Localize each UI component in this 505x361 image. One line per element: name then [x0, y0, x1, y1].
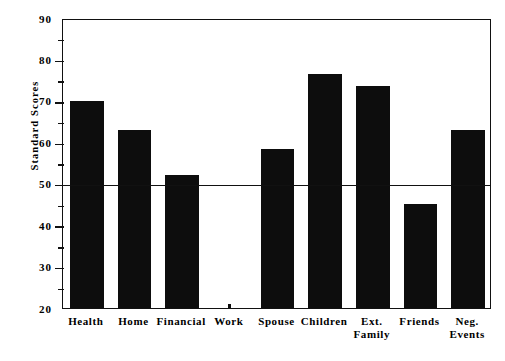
bar: [70, 101, 103, 308]
bar: [228, 304, 231, 308]
y-tick-minor: [58, 164, 64, 165]
y-tick-minor: [58, 247, 64, 248]
y-tick-label: 60: [8, 138, 52, 149]
bar-chart: Life Stressors Standard Scores 203040506…: [0, 0, 505, 361]
bar: [356, 86, 389, 308]
y-tick-minor: [58, 206, 64, 207]
y-tick-label: 40: [8, 221, 52, 232]
bar: [308, 74, 341, 308]
y-tick-label: 80: [8, 55, 52, 66]
bar: [165, 175, 198, 308]
y-tick-minor: [58, 81, 64, 82]
bar: [261, 149, 294, 309]
x-tick-label: Neg. Events: [437, 315, 497, 341]
bar: [451, 130, 484, 308]
y-tick-minor: [58, 40, 64, 41]
y-tick-minor: [58, 289, 64, 290]
y-tick-major: [55, 61, 64, 62]
y-tick-label: 30: [8, 262, 52, 273]
bar: [118, 130, 151, 308]
y-tick-label: 90: [8, 14, 52, 25]
y-tick-major: [55, 144, 64, 145]
bar: [404, 204, 437, 308]
y-tick-major: [55, 226, 64, 227]
y-tick-label: 20: [8, 304, 52, 315]
y-tick-label: 50: [8, 179, 52, 190]
plot-area: [62, 19, 491, 309]
reference-line-50: [63, 185, 490, 186]
y-tick-label: 70: [8, 96, 52, 107]
y-tick-major: [55, 102, 64, 103]
y-tick-major: [55, 268, 64, 269]
y-tick-minor: [58, 123, 64, 124]
